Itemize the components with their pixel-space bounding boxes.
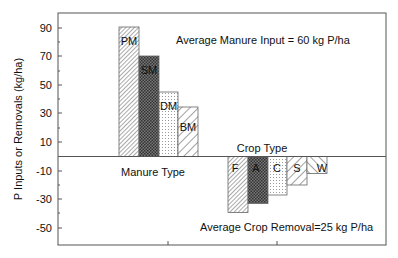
y-tick-label: 70 bbox=[40, 50, 52, 62]
y-tick-label: 30 bbox=[40, 107, 52, 119]
bar-label-a: A bbox=[252, 162, 260, 174]
crop-group-label: Crop Type bbox=[237, 142, 288, 154]
y-tick-label: -30 bbox=[36, 193, 52, 205]
bar-label-w: W bbox=[317, 162, 328, 174]
crop-note: Average Crop Removal=25 kg P/ha bbox=[200, 221, 374, 233]
plot-frame bbox=[58, 13, 386, 245]
chart: 90 70 50 30 10 -10 -30 -50 P Inputs or R… bbox=[0, 0, 398, 258]
y-tick-label: 90 bbox=[40, 22, 52, 34]
bar-label-sm: SM bbox=[141, 64, 158, 76]
manure-note: Average Manure Input = 60 kg P/ha bbox=[176, 34, 351, 46]
bar-label-c: C bbox=[273, 162, 281, 174]
y-tick-label: -50 bbox=[36, 222, 52, 234]
y-axis-label: P Inputs or Removals (kg/ha) bbox=[12, 58, 24, 200]
y-tick-label: -10 bbox=[36, 165, 52, 177]
manure-group-label: Manure Type bbox=[121, 166, 185, 178]
bar-label-dm: DM bbox=[160, 100, 177, 112]
y-tick-labels: 90 70 50 30 10 -10 -30 -50 bbox=[36, 22, 52, 234]
bar-label-bm: BM bbox=[180, 121, 197, 133]
bar-label-s: S bbox=[293, 162, 300, 174]
bar-label-pm: PM bbox=[121, 35, 138, 47]
y-tick-label: 10 bbox=[40, 136, 52, 148]
y-tick-label: 50 bbox=[40, 79, 52, 91]
bar-label-f: F bbox=[232, 162, 239, 174]
